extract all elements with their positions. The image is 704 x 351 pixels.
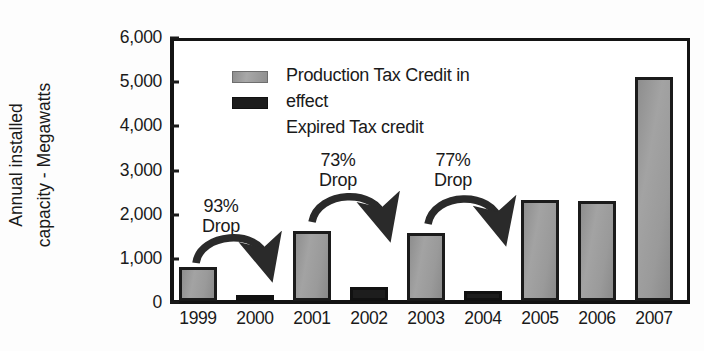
annotation-93-drop: 93% Drop — [202, 196, 240, 236]
legend: Production Tax Credit in effect Expired … — [232, 65, 532, 143]
annotation-93-drop-label: Drop — [202, 216, 240, 236]
legend-swatch-gray-icon — [232, 71, 268, 83]
bar-2002 — [350, 287, 388, 301]
legend-item-expired-tax-credit: Expired Tax credit — [232, 117, 532, 143]
y-tick-label-2000: 2,000 — [78, 206, 162, 224]
x-tick-label-2006: 2006 — [578, 308, 615, 329]
bar-1999 — [179, 267, 217, 301]
x-tick-label-2001: 2001 — [293, 308, 330, 329]
chart-figure: Annual installed capacity - Megawatts 6,… — [0, 0, 704, 351]
y-axis-title-line2: capacity - Megawatts — [0, 0, 62, 330]
bar-2007 — [635, 77, 673, 301]
x-tick-label-2007: 2007 — [635, 308, 672, 329]
legend-label-expired-tax-credit: Expired Tax credit — [286, 117, 423, 138]
x-axis-tick-labels: 1999 2000 2001 2002 2003 2004 2005 2006 … — [174, 308, 687, 338]
y-tick-label-1000: 1,000 — [78, 250, 162, 268]
x-tick-label-2004: 2004 — [464, 308, 501, 329]
x-tick-label-2003: 2003 — [407, 308, 444, 329]
bar-2003 — [407, 233, 445, 301]
annotation-73-drop-label: Drop — [319, 170, 357, 190]
legend-item-production-tax-credit: Production Tax Credit in — [232, 65, 532, 91]
y-axis-title-line2-text: capacity - Megawatts — [34, 83, 55, 247]
bar-2001 — [293, 231, 331, 301]
bar-2005 — [521, 200, 559, 301]
y-tick-label-4000: 4,000 — [78, 117, 162, 135]
bar-2004 — [464, 291, 502, 301]
bar-2006 — [578, 201, 616, 301]
annotation-73-percent: 73% — [319, 150, 357, 170]
x-tick-label-2000: 2000 — [236, 308, 273, 329]
legend-label-production-tax-credit: Production Tax Credit in — [286, 65, 470, 86]
annotation-77-percent: 77% — [434, 150, 472, 170]
x-tick-label-2005: 2005 — [521, 308, 558, 329]
y-axis-title: Annual installed capacity - Megawatts — [0, 0, 62, 330]
y-tick-label-6000: 6,000 — [78, 29, 162, 47]
legend-item-effect: effect — [232, 91, 532, 117]
annotation-73-drop: 73% Drop — [319, 150, 357, 190]
annotation-77-drop: 77% Drop — [434, 150, 472, 190]
y-tick-label-5000: 5,000 — [78, 73, 162, 91]
x-tick-label-1999: 1999 — [179, 308, 216, 329]
y-axis-tick-labels: 6,000 5,000 4,000 3,000 2,000 1,000 0 — [78, 0, 162, 351]
y-tick-label-3000: 3,000 — [78, 162, 162, 180]
bar-2000 — [236, 295, 274, 301]
legend-label-effect: effect — [286, 91, 328, 112]
y-tick-label-0: 0 — [78, 294, 162, 312]
annotation-77-drop-label: Drop — [434, 170, 472, 190]
annotation-93-percent: 93% — [202, 196, 240, 216]
x-tick-label-2002: 2002 — [350, 308, 387, 329]
legend-swatch-black-icon — [232, 97, 268, 109]
